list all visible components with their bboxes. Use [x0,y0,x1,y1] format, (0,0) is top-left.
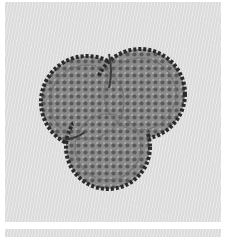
bottom-strip [5,229,221,237]
pollen-grain [5,2,221,222]
micrograph-panel [5,2,221,222]
